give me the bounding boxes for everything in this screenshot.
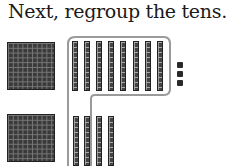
ten-rod — [84, 116, 90, 166]
ten-rod — [133, 41, 139, 91]
ten-rod — [96, 116, 102, 166]
one-cube — [177, 71, 183, 77]
ten-rod — [84, 41, 90, 91]
ten-rod — [145, 41, 151, 91]
ten-rod — [72, 41, 78, 91]
ten-rod — [120, 41, 126, 91]
ten-rod — [108, 41, 114, 91]
ten-rod — [96, 41, 102, 91]
ten-rod — [157, 41, 163, 91]
one-cube — [177, 62, 183, 68]
ten-rod — [73, 116, 79, 166]
one-cube — [177, 80, 183, 86]
regroup-outline — [0, 0, 252, 166]
ten-rod — [108, 116, 114, 166]
